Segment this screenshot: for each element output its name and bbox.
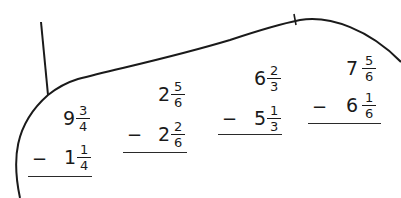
numerator: 1 <box>80 143 88 156</box>
answer-line <box>218 134 282 135</box>
fraction: 1 4 <box>77 143 91 172</box>
whole-number: 9 <box>63 109 75 128</box>
subtrahend: 2 2 6 <box>158 120 185 149</box>
denominator: 6 <box>174 136 182 149</box>
minus-sign: − <box>127 126 142 144</box>
numerator: 1 <box>270 104 278 117</box>
numerator: 3 <box>79 104 87 117</box>
denominator: 4 <box>80 159 88 172</box>
minus-sign: − <box>32 150 47 168</box>
fraction: 3 4 <box>76 104 90 133</box>
whole-number: 2 <box>158 125 170 144</box>
minus-sign: − <box>222 110 237 128</box>
denominator: 6 <box>365 107 373 120</box>
fraction: 5 6 <box>171 80 185 109</box>
whole-number: 6 <box>346 96 358 115</box>
shape-outline <box>0 0 401 198</box>
numerator: 2 <box>270 64 278 77</box>
whole-number: 5 <box>254 109 266 128</box>
fraction: 1 6 <box>362 91 376 120</box>
fraction: 1 3 <box>267 104 281 133</box>
subtrahend: 1 1 4 <box>64 143 91 172</box>
numerator: 1 <box>365 91 373 104</box>
fraction: 2 3 <box>267 64 281 93</box>
subtrahend: 6 1 6 <box>346 91 376 120</box>
whole-number: 2 <box>158 85 170 104</box>
numerator: 5 <box>174 80 182 93</box>
numerator: 5 <box>365 54 373 67</box>
denominator: 6 <box>365 70 373 83</box>
minus-sign: − <box>312 98 327 116</box>
minuend: 6 2 3 <box>254 64 281 93</box>
minuend: 2 5 6 <box>158 80 185 109</box>
denominator: 3 <box>270 120 278 133</box>
answer-line <box>123 152 187 153</box>
whole-number: 1 <box>64 148 76 167</box>
answer-line <box>308 123 381 124</box>
minuend: 9 3 4 <box>63 104 90 133</box>
whole-number: 7 <box>346 59 358 78</box>
subtrahend: 5 1 3 <box>254 104 281 133</box>
whole-number: 6 <box>254 69 266 88</box>
fraction: 5 6 <box>362 54 376 83</box>
numerator: 2 <box>174 120 182 133</box>
denominator: 6 <box>174 96 182 109</box>
answer-line <box>28 176 92 177</box>
denominator: 4 <box>79 120 87 133</box>
fraction: 2 6 <box>171 120 185 149</box>
denominator: 3 <box>270 80 278 93</box>
minuend: 7 5 6 <box>346 54 376 83</box>
